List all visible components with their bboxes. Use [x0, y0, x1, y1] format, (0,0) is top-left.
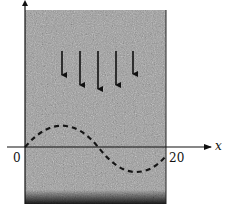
medium-rectangle — [25, 10, 166, 204]
end-label: 20 — [169, 152, 184, 164]
x-axis-label: x — [215, 140, 222, 152]
origin-label: 0 — [13, 152, 21, 164]
y-axis-arrowhead-icon — [22, 0, 28, 6]
wave-diagram — [0, 0, 225, 204]
